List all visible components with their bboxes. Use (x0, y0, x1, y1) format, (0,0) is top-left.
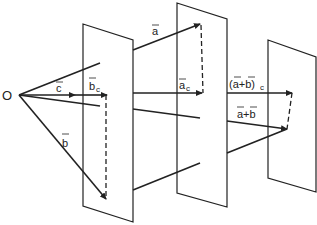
vector-projection-diagram: O c b c b a a c (a+b) c a+b (0, 0, 317, 225)
svg-text:c: c (186, 84, 190, 93)
plane-2 (177, 3, 227, 207)
svg-text:c: c (96, 85, 100, 94)
svg-text:b: b (89, 80, 95, 92)
plane-1 (83, 24, 133, 222)
label-sum-c: (a+b) c (229, 77, 264, 92)
label-a: a (152, 25, 159, 37)
svg-text:c: c (56, 82, 62, 94)
label-c: c (56, 82, 63, 94)
label-b: b (62, 134, 69, 149)
svg-text:a+b: a+b (237, 108, 256, 120)
plane-3 (268, 40, 316, 192)
origin-label: O (2, 88, 12, 103)
svg-text:b: b (62, 137, 68, 149)
svg-text:a: a (179, 79, 186, 91)
svg-text:(a+b): (a+b) (229, 78, 255, 90)
label-sum: a+b (237, 107, 257, 120)
svg-text:a: a (152, 25, 159, 37)
svg-text:c: c (260, 83, 264, 92)
